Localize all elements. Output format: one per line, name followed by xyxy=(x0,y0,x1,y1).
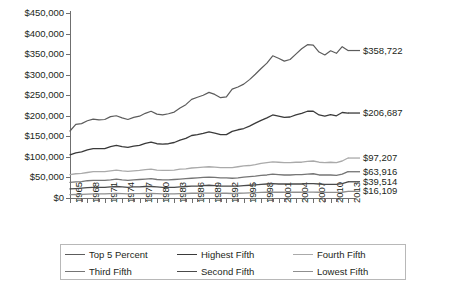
y-tick-label: $0 xyxy=(0,193,64,203)
series-end-label: $206,687 xyxy=(363,108,403,118)
legend-swatch-icon xyxy=(65,254,85,255)
y-tick-mark xyxy=(66,54,70,55)
legend-label: Lowest Fifth xyxy=(317,266,368,277)
x-tick-mark xyxy=(70,198,71,203)
x-tick-mark xyxy=(82,198,83,202)
x-tick-mark xyxy=(203,198,204,202)
x-tick-mark xyxy=(302,198,303,202)
legend-label: Third Fifth xyxy=(89,266,132,277)
x-tick-mark xyxy=(342,198,343,202)
y-tick-label: $100,000 xyxy=(0,152,64,162)
x-tick-mark xyxy=(105,198,106,203)
x-tick-mark xyxy=(145,198,146,202)
x-tick-mark xyxy=(250,198,251,202)
x-tick-mark xyxy=(307,198,308,202)
x-tick-mark xyxy=(267,198,268,202)
legend-label: Second Fifth xyxy=(201,266,254,277)
x-tick-mark xyxy=(273,198,274,202)
x-tick-mark xyxy=(99,198,100,202)
series-line xyxy=(70,158,348,175)
x-tick-mark xyxy=(348,198,349,203)
legend-item[interactable]: Top 5 Percent xyxy=(65,246,177,263)
series-end-label: $16,109 xyxy=(363,186,397,196)
y-tick-label: $300,000 xyxy=(0,70,64,80)
y-tick-label: $250,000 xyxy=(0,90,64,100)
x-tick-mark xyxy=(174,198,175,203)
y-tick-mark xyxy=(66,116,70,117)
y-axis-line xyxy=(70,11,71,200)
x-tick-mark xyxy=(284,198,285,202)
x-tick-mark xyxy=(116,198,117,202)
legend-swatch-icon xyxy=(177,254,197,255)
x-tick-mark xyxy=(255,198,256,202)
x-tick-mark xyxy=(313,198,314,203)
x-tick-label: 2013 xyxy=(352,182,361,203)
x-tick-mark xyxy=(238,198,239,202)
legend-label: Fourth Fifth xyxy=(317,249,366,260)
x-tick-mark xyxy=(111,198,112,202)
x-tick-mark xyxy=(122,198,123,203)
legend-item[interactable]: Lowest Fifth xyxy=(293,263,409,280)
x-tick-mark xyxy=(232,198,233,202)
y-tick-mark xyxy=(66,75,70,76)
x-tick-mark xyxy=(336,198,337,202)
y-tick-label: $150,000 xyxy=(0,131,64,141)
legend-item[interactable]: Third Fifth xyxy=(65,263,177,280)
series-end-label: $97,207 xyxy=(363,153,397,163)
legend-item[interactable]: Second Fifth xyxy=(177,263,293,280)
legend-swatch-icon xyxy=(177,271,197,272)
series-end-label: $358,722 xyxy=(363,46,403,56)
y-tick-mark xyxy=(66,34,70,35)
x-tick-mark xyxy=(261,198,262,203)
y-tick-mark xyxy=(66,136,70,137)
x-tick-mark xyxy=(279,198,280,203)
x-tick-mark xyxy=(226,198,227,203)
x-tick-mark xyxy=(168,198,169,202)
x-tick-mark xyxy=(221,198,222,202)
x-tick-mark xyxy=(197,198,198,202)
x-tick-mark xyxy=(209,198,210,203)
y-tick-mark xyxy=(66,177,70,178)
series-line xyxy=(70,45,348,131)
chart-legend: Top 5 PercentHighest FifthFourth FifthTh… xyxy=(60,244,406,280)
x-tick-mark xyxy=(290,198,291,202)
x-tick-mark xyxy=(134,198,135,202)
x-tick-mark xyxy=(319,198,320,202)
x-tick-mark xyxy=(87,198,88,203)
legend-label: Highest Fifth xyxy=(201,249,254,260)
x-tick-mark xyxy=(151,198,152,202)
x-tick-mark xyxy=(93,198,94,202)
legend-swatch-icon xyxy=(293,254,313,255)
x-tick-mark xyxy=(163,198,164,202)
y-tick-mark xyxy=(66,95,70,96)
x-tick-mark xyxy=(296,198,297,203)
legend-item[interactable]: Fourth Fifth xyxy=(293,246,409,263)
y-tick-label: $350,000 xyxy=(0,49,64,59)
y-tick-label: $450,000 xyxy=(0,8,64,18)
series-line xyxy=(70,172,348,183)
legend-label: Top 5 Percent xyxy=(89,249,148,260)
legend-swatch-icon xyxy=(293,271,313,272)
x-tick-mark xyxy=(128,198,129,202)
x-tick-mark xyxy=(244,198,245,203)
x-tick-mark xyxy=(331,198,332,203)
x-tick-mark xyxy=(76,198,77,202)
x-tick-mark xyxy=(180,198,181,202)
series-line xyxy=(70,111,348,155)
y-tick-label: $50,000 xyxy=(0,172,64,182)
x-tick-mark xyxy=(215,198,216,202)
y-tick-mark xyxy=(66,13,70,14)
legend-item[interactable]: Highest Fifth xyxy=(177,246,293,263)
income-quintile-line-chart: $0$50,000$100,000$150,000$200,000$250,00… xyxy=(0,0,464,287)
legend-swatch-icon xyxy=(65,271,85,272)
y-tick-label: $400,000 xyxy=(0,29,64,39)
x-tick-mark xyxy=(140,198,141,203)
x-tick-mark xyxy=(192,198,193,203)
y-tick-label: $200,000 xyxy=(0,111,64,121)
y-tick-mark xyxy=(66,157,70,158)
x-tick-mark xyxy=(325,198,326,202)
x-tick-mark xyxy=(186,198,187,202)
x-tick-mark xyxy=(157,198,158,203)
